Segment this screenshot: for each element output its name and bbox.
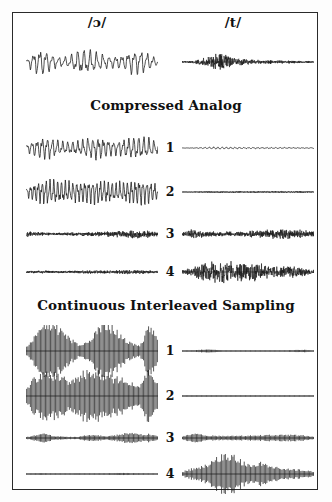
waveform-noise <box>182 258 314 286</box>
waveform-cell-open-o <box>26 175 158 209</box>
waveform-cell-t <box>182 258 314 286</box>
waveform-cell-t <box>182 131 314 165</box>
waveform-cell-open-o <box>26 421 158 455</box>
waveform-analog <box>182 131 314 165</box>
figure-root: /ɔ/ /t/ Compressed Analog 1234 Continuou… <box>0 0 332 502</box>
waveform-cell-open-o <box>26 131 158 165</box>
waveform-cell-t <box>182 370 314 422</box>
waveform-pulse-train <box>26 454 158 494</box>
channel-number-4: 4 <box>162 264 178 279</box>
waveform-cell-open-o <box>26 370 158 422</box>
waveform-cell-open-o <box>26 42 158 82</box>
waveform-analog <box>26 175 158 209</box>
waveform-pulse-train <box>26 421 158 455</box>
waveform-cell-t <box>182 175 314 209</box>
waveform-cell-open-o <box>26 221 158 247</box>
section-title-compressed-analog: Compressed Analog <box>0 97 332 113</box>
column-header-row: /ɔ/ /t/ <box>0 14 332 36</box>
waveform-analog <box>26 131 158 165</box>
waveform-cell-open-o <box>26 454 158 494</box>
waveform-analog <box>26 42 158 82</box>
channel-number-1: 1 <box>162 140 178 155</box>
waveform-cell-t <box>182 454 314 494</box>
section-title-cis: Continuous Interleaved Sampling <box>0 297 332 313</box>
channel-number-4: 4 <box>162 466 178 481</box>
channel-number-3: 3 <box>162 430 178 445</box>
waveform-noise <box>26 258 158 286</box>
waveform-cell-t <box>182 421 314 455</box>
waveform-noise <box>26 221 158 247</box>
waveform-pulse-train <box>182 454 314 494</box>
column-header-open-o: /ɔ/ <box>42 14 152 30</box>
waveform-pulse-train <box>26 370 158 422</box>
waveform-noise <box>182 175 314 209</box>
waveform-pulse-train <box>182 421 314 455</box>
channel-number-2: 2 <box>162 184 178 199</box>
input-waveform-row <box>0 40 332 84</box>
channel-number-2: 2 <box>162 388 178 403</box>
waveform-cell-open-o <box>26 258 158 286</box>
waveform-noise <box>182 48 314 76</box>
waveform-cell-t <box>182 48 314 76</box>
waveform-pulse-train <box>182 370 314 422</box>
waveform-noise <box>182 221 314 247</box>
waveform-cell-t <box>182 221 314 247</box>
column-header-t: /t/ <box>178 14 288 30</box>
channel-number-1: 1 <box>162 343 178 358</box>
channel-number-3: 3 <box>162 226 178 241</box>
